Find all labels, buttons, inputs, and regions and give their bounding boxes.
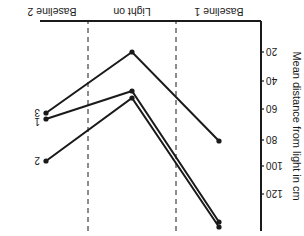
tick-label-20: 20 [266,46,278,57]
y-axis-label: Mean distance from light in cm [291,51,303,200]
series-lines [46,52,219,227]
series-labels: 3 1 2 [34,107,40,166]
y-tick-labels: 20 40 60 80 100 120 [266,46,283,199]
tick-label-60: 60 [266,103,278,114]
line-chart: 20 40 60 80 100 120 Mean distance from l… [0,0,304,236]
tick-label-80: 80 [266,134,278,145]
category-label-baseline-2: Baseline 2 [27,6,76,18]
tick-label-100: 100 [266,160,283,171]
tick-label-40: 40 [266,75,278,86]
category-label-light-on: Light on [113,6,151,18]
series-1-line [46,91,219,222]
category-label-baseline-1: Baseline 1 [194,6,243,18]
series-label-2: 2 [34,155,40,166]
series-markers [43,49,221,229]
series-2-line [46,98,219,227]
category-labels: Baseline 1 Light on Baseline 2 [27,6,243,18]
chart-canvas: 20 40 60 80 100 120 Mean distance from l… [0,0,304,236]
tick-label-120: 120 [266,188,283,199]
series-label-1: 1 [34,116,40,127]
